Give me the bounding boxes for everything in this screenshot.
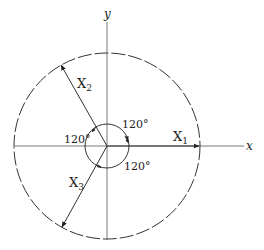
vector-x3-label: X3 — [69, 175, 84, 192]
vector-x1-label: X1 — [173, 129, 188, 146]
angle-label-left: 120° — [64, 133, 91, 146]
angle-label-lower-right: 120° — [124, 160, 151, 173]
angle-label-upper-right: 120° — [122, 118, 149, 131]
vector-x2-label: X2 — [77, 76, 92, 93]
y-axis-label: y — [103, 7, 111, 21]
three-phase-vector-diagram: y x X1 X2 X3 120° 120° 120° — [0, 0, 264, 250]
x-axis-label: x — [246, 139, 253, 153]
